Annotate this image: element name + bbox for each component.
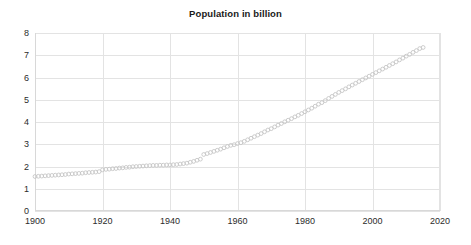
data-series-markers [35,33,440,211]
chart-title: Population in billion [0,8,471,19]
population-chart: Population in billion 012345678 19001920… [0,0,471,245]
y-tick-label: 2 [24,162,29,172]
x-tick-label: 2020 [430,216,450,226]
x-tick-label: 1900 [25,216,45,226]
y-tick-label: 8 [24,28,29,38]
plot-area: 012345678 1900192019401960198020002020 [35,33,440,211]
x-tick-label: 1960 [227,216,247,226]
y-tick-label: 3 [24,139,29,149]
x-tick-label: 2000 [362,216,382,226]
y-tick-label: 5 [24,95,29,105]
y-tick-label: 0 [24,206,29,216]
x-tick-label: 1940 [160,216,180,226]
x-tick-label: 1920 [92,216,112,226]
gridline-vertical [440,33,441,211]
x-tick-label: 1980 [295,216,315,226]
y-tick-label: 4 [24,117,29,127]
y-tick-label: 7 [24,50,29,60]
y-tick-label: 1 [24,184,29,194]
gridline-horizontal [35,211,440,212]
y-tick-label: 6 [24,73,29,83]
